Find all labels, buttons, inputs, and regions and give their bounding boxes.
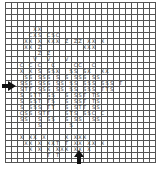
stitch-symbol: X <box>100 140 106 146</box>
stitch-symbol: S <box>50 116 56 122</box>
stitch-symbol: Z <box>64 38 70 44</box>
stitch-symbol: X <box>64 146 70 152</box>
stitch-symbol: X <box>86 146 92 152</box>
stitch-symbol: T <box>118 80 124 86</box>
stitch-symbol: X <box>37 146 43 152</box>
stitch-symbol: X <box>91 44 97 50</box>
stitch-symbol: S <box>37 122 43 128</box>
stitch-symbol: X <box>104 68 110 74</box>
stitch-symbol: X <box>28 44 34 50</box>
center-row-arrow-icon <box>2 81 16 91</box>
stitch-symbol: S <box>77 116 83 122</box>
stitch-symbol: X <box>55 38 61 44</box>
cross-stitch-grid: XXCXSCSCXXXXXXZZZXXXXXZXXXZZVVVCCCCCCCXX… <box>5 2 156 163</box>
center-column-arrow-icon <box>74 150 84 164</box>
stitch-symbol: X <box>28 146 34 152</box>
stitch-symbol: S <box>109 86 115 92</box>
stitch-symbol: S <box>23 116 29 122</box>
stitch-symbol: V <box>64 56 70 62</box>
stitch-symbol: T <box>55 152 61 158</box>
stitch-symbol: S <box>68 122 74 128</box>
stitch-symbol: T <box>46 152 52 158</box>
stitch-symbol: X <box>100 38 106 44</box>
stitch-symbol: S <box>95 116 101 122</box>
